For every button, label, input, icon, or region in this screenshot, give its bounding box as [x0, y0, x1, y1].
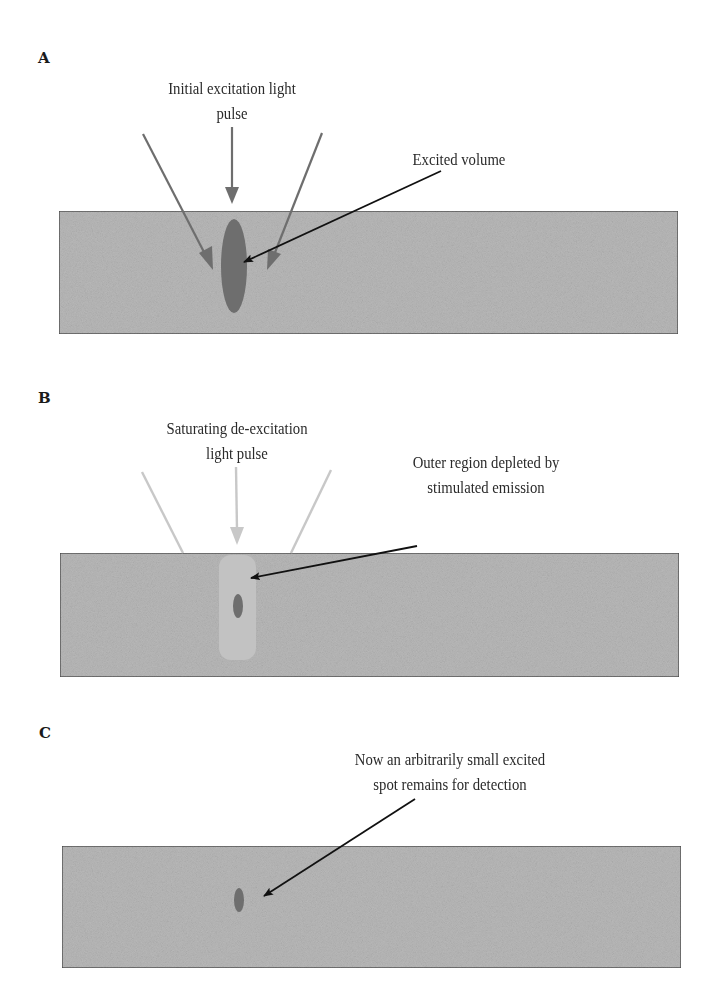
- left-deexcitation-beam: [142, 472, 183, 553]
- excited-volume-caption: Excited volume: [381, 147, 537, 172]
- depleted-region-caption: Outer region depleted by stimulated emis…: [376, 450, 597, 500]
- sample-slab-a: [59, 211, 678, 334]
- sted-diagram: [0, 0, 711, 1002]
- center-deexcitation-arrowhead-icon: [230, 527, 244, 545]
- panel-label-b: B: [38, 389, 51, 407]
- sample-slab-c: [62, 846, 681, 968]
- excited-volume: [221, 219, 247, 313]
- center-deexcitation-arrow: [236, 467, 237, 530]
- panel-c: [62, 799, 681, 968]
- panel-label-a: A: [38, 49, 50, 67]
- detection-spot-caption: Now an arbitrarily small excited spot re…: [312, 747, 588, 797]
- small-excited-spot-c: [234, 888, 244, 912]
- excitation-pulse-caption: Initial excitation light pulse: [140, 76, 324, 126]
- right-deexcitation-beam: [291, 470, 331, 553]
- panel-a: [59, 127, 678, 334]
- deexcitation-pulse-caption: Saturating de-excitation light pulse: [131, 416, 343, 466]
- panel-label-c: C: [39, 724, 51, 742]
- center-arrowhead-icon: [225, 187, 239, 204]
- sample-slab-b: [60, 553, 679, 677]
- small-excited-spot-b: [233, 594, 243, 618]
- deexcitation-beam-arrows: [142, 467, 331, 553]
